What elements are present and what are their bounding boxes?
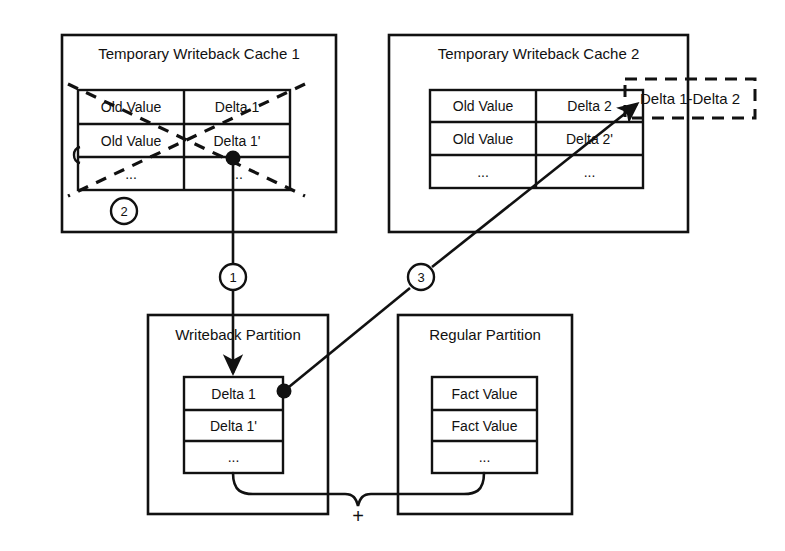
cache-1-cell-r0c0: Old Value bbox=[78, 90, 184, 124]
cache-1-cell-r2c0: ... bbox=[78, 157, 184, 190]
dashed-callout-label: Delta 1-Delta 2 bbox=[625, 79, 755, 118]
step-3-badge-label: 3 bbox=[408, 264, 434, 290]
writeback-partition-cell-2: ... bbox=[184, 441, 283, 473]
regular-partition-title: Regular Partition bbox=[398, 326, 572, 343]
regular-partition-cell-1: Fact Value bbox=[432, 410, 537, 441]
merge-brace bbox=[233, 473, 484, 506]
regular-partition-cell-0: Fact Value bbox=[432, 377, 537, 410]
cache-2-cell-r2c0: ... bbox=[430, 155, 536, 188]
step-1-badge-label: 1 bbox=[220, 264, 246, 290]
writeback-partition-cell-0: Delta 1 bbox=[184, 377, 283, 410]
cache-2-cell-r1c1: Delta 2' bbox=[536, 122, 643, 155]
cache-2-title: Temporary Writeback Cache 2 bbox=[389, 45, 688, 62]
cache-1-cell-r0c1: Delta 1 bbox=[184, 90, 290, 124]
regular-partition-cell-2: ... bbox=[432, 441, 537, 473]
step-2-badge-label: 2 bbox=[111, 198, 137, 224]
writeback-partition-cell-1: Delta 1' bbox=[184, 410, 283, 441]
cache-1-title: Temporary Writeback Cache 1 bbox=[62, 45, 336, 62]
cache-2-cell-r0c0: Old Value bbox=[430, 90, 536, 122]
cache-1-cell-r1c0: Old Value bbox=[78, 124, 184, 157]
cache-1-cell-r2c1: ... bbox=[184, 157, 290, 190]
merge-plus-operator: + bbox=[345, 503, 371, 529]
diagram-canvas: Temporary Writeback Cache 1 Old Value De… bbox=[0, 0, 785, 551]
cache-2-cell-r2c1: ... bbox=[536, 155, 643, 188]
cache-1-cell-r1c1: Delta 1' bbox=[184, 124, 290, 157]
cache-2-cell-r1c0: Old Value bbox=[430, 122, 536, 155]
writeback-partition-title: Writeback Partition bbox=[148, 326, 328, 343]
